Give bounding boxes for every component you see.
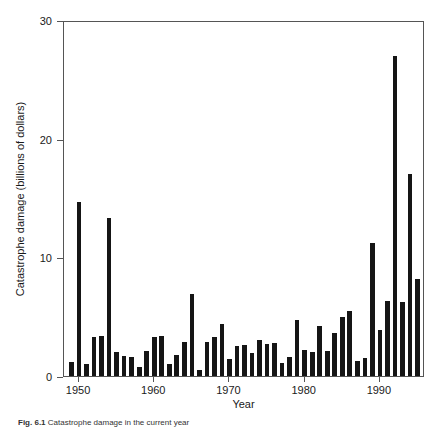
bar	[363, 358, 368, 376]
bar	[69, 362, 74, 376]
figure-caption: Fig. 6.1 Catastrophe damage in the curre…	[18, 418, 438, 428]
bar	[280, 363, 285, 376]
caption-text: Catastrophe damage in the current year	[48, 418, 189, 427]
bar	[370, 243, 375, 376]
x-tick-mark	[304, 377, 305, 382]
bar	[159, 336, 164, 376]
bar	[107, 218, 112, 376]
x-tick-label: 1960	[141, 384, 165, 396]
x-axis-title: Year	[63, 398, 424, 410]
bar	[340, 317, 345, 376]
bar	[408, 174, 413, 376]
figure-catastrophe-damage: 0102030 Catastrophe damage (billions of …	[0, 0, 443, 429]
bar	[347, 311, 352, 376]
bar	[235, 346, 240, 376]
bar	[144, 351, 149, 376]
bar	[385, 301, 390, 376]
bar	[242, 345, 247, 376]
bar	[190, 294, 195, 376]
bar	[122, 356, 127, 376]
bar	[114, 352, 119, 376]
bar	[84, 364, 89, 376]
y-tick-label: 20	[40, 134, 52, 145]
bar	[332, 333, 337, 376]
bar	[99, 336, 104, 376]
bar	[325, 351, 330, 376]
bar	[250, 353, 255, 376]
bar	[378, 330, 383, 376]
x-tick-mark	[78, 377, 79, 382]
bar	[272, 343, 277, 376]
bar	[265, 344, 270, 376]
bar	[197, 370, 202, 376]
bar	[212, 337, 217, 376]
bar	[317, 326, 322, 376]
bar	[152, 337, 157, 376]
bar	[167, 364, 172, 376]
x-tick-label: 1980	[291, 384, 315, 396]
bar	[415, 279, 420, 376]
bar	[227, 359, 232, 376]
bar	[92, 337, 97, 376]
bar	[77, 202, 82, 376]
bar	[355, 361, 360, 376]
x-tick-label: 1990	[367, 384, 391, 396]
x-tick-mark	[379, 377, 380, 382]
bar	[302, 350, 307, 376]
bar	[295, 320, 300, 376]
bar	[220, 324, 225, 376]
bar	[310, 352, 315, 376]
bar	[400, 302, 405, 376]
x-tick-label: 1950	[66, 384, 90, 396]
bar	[137, 367, 142, 376]
bar	[205, 342, 210, 376]
y-axis-title: Catastrophe damage (billions of dollars)	[10, 21, 31, 377]
bar-series	[64, 22, 423, 376]
bar	[393, 56, 398, 376]
y-tick-label: 30	[40, 16, 52, 27]
bar	[257, 340, 262, 376]
bar	[287, 357, 292, 376]
bar	[174, 355, 179, 376]
x-tick-mark	[228, 377, 229, 382]
x-tick-label: 1970	[216, 384, 240, 396]
y-tick-label: 10	[40, 253, 52, 264]
plot-area	[63, 21, 424, 377]
bar	[182, 342, 187, 376]
caption-label: Fig. 6.1	[18, 418, 46, 427]
x-tick-mark	[153, 377, 154, 382]
bar	[129, 357, 134, 376]
